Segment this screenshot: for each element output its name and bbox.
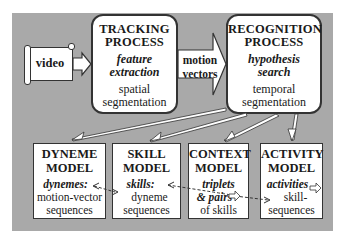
skill-arrowhead-left: [168, 182, 174, 188]
dashed-links-layer: [0, 0, 345, 243]
context-hollow-arrow-icon: [229, 191, 240, 201]
dyneme-skill-dashed-link: [94, 186, 115, 192]
activity-hollow-arrow-icon: [310, 183, 321, 193]
skill-context-dashed-link: [168, 185, 238, 196]
dyneme-arrowhead-left: [93, 183, 99, 189]
